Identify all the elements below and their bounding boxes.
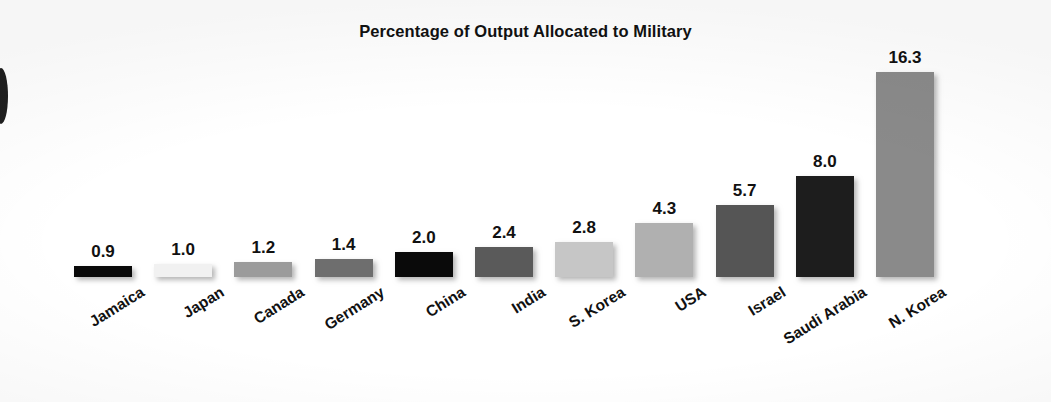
bar-group: 2.8S. Korea <box>555 242 613 277</box>
bar <box>475 247 533 277</box>
bar-group: 0.9Jamaica <box>74 266 132 277</box>
bar-group: 5.7Israel <box>716 205 774 277</box>
category-label: Japan <box>180 283 228 322</box>
category-label: Israel <box>745 283 789 320</box>
bar <box>796 176 854 277</box>
category-label: Germany <box>322 283 389 334</box>
bar-group: 2.4India <box>475 247 533 277</box>
bar-group: 1.4Germany <box>315 259 373 277</box>
category-label: Canada <box>251 283 308 328</box>
bar-group: 8.0Saudi Arabia <box>796 176 854 277</box>
bar-value-label: 4.3 <box>653 199 677 219</box>
bar-group: 1.2Canada <box>234 262 292 277</box>
bar-value-label: 1.0 <box>171 240 195 260</box>
bar-group: 16.3N. Korea <box>876 72 934 277</box>
bar-value-label: 2.0 <box>412 228 436 248</box>
bar <box>234 262 292 277</box>
bar-value-label: 1.4 <box>332 235 356 255</box>
bar-value-label: 1.2 <box>252 238 276 258</box>
bar-group: 4.3USA <box>635 223 693 277</box>
bar-group: 1.0Japan <box>154 264 212 277</box>
category-label: Saudi Arabia <box>780 283 869 348</box>
category-label: N. Korea <box>886 283 950 332</box>
bar-value-label: 2.8 <box>572 218 596 238</box>
bar-value-label: 5.7 <box>733 181 757 201</box>
bar <box>395 252 453 277</box>
category-label: China <box>422 283 468 321</box>
bar <box>74 266 132 277</box>
bar <box>555 242 613 277</box>
category-label: Jamaica <box>86 283 147 331</box>
bar-value-label: 0.9 <box>91 242 115 262</box>
bar-chart-plot-area: 0.9Jamaica1.0Japan1.2Canada1.4Germany2.0… <box>0 0 1051 402</box>
bar <box>635 223 693 277</box>
bar <box>154 264 212 277</box>
bar-value-label: 2.4 <box>492 223 516 243</box>
bar <box>315 259 373 277</box>
category-label: S. Korea <box>566 283 629 332</box>
bar-value-label: 16.3 <box>888 48 921 68</box>
bar-group: 2.0China <box>395 252 453 277</box>
bar <box>716 205 774 277</box>
category-label: India <box>508 283 548 317</box>
category-label: USA <box>672 283 709 316</box>
bar-value-label: 8.0 <box>813 152 837 172</box>
bar <box>876 72 934 277</box>
